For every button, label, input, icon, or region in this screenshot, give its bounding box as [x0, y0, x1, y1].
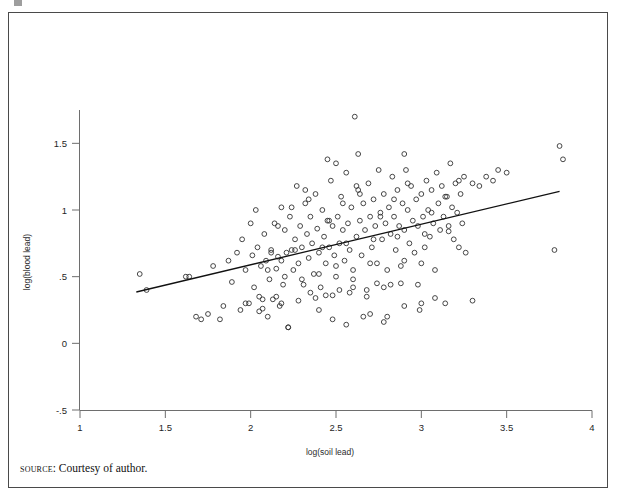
- data-point: [463, 250, 468, 255]
- data-point: [318, 285, 323, 290]
- data-point: [257, 309, 262, 314]
- data-point: [450, 205, 455, 210]
- data-point: [446, 229, 451, 234]
- data-point-group: [137, 114, 565, 329]
- data-point: [381, 320, 386, 325]
- data-point: [357, 192, 362, 197]
- data-point: [334, 274, 339, 279]
- data-point: [282, 274, 287, 279]
- data-point: [398, 281, 403, 286]
- source-note: source: Courtesy of author.: [20, 462, 147, 474]
- data-point: [206, 312, 211, 317]
- y-tick-label: .5: [59, 271, 67, 282]
- data-point: [259, 264, 264, 269]
- data-point: [380, 237, 385, 242]
- data-point: [412, 250, 417, 255]
- data-point: [291, 268, 296, 273]
- data-point: [410, 218, 415, 223]
- data-point: [388, 282, 393, 287]
- regression-line: [136, 191, 559, 292]
- data-point: [286, 325, 291, 330]
- data-point: [462, 174, 467, 179]
- data-point: [342, 258, 347, 263]
- y-tick-label: -.5: [56, 405, 67, 416]
- data-point: [281, 282, 286, 287]
- data-point: [328, 178, 333, 183]
- data-point: [289, 205, 294, 210]
- data-point: [448, 161, 453, 166]
- data-point: [456, 178, 461, 183]
- x-tick-label: 3.5: [500, 422, 513, 433]
- data-point: [305, 232, 310, 237]
- source-text: : Courtesy of author.: [53, 462, 148, 474]
- data-point: [361, 201, 366, 206]
- data-point: [371, 237, 376, 242]
- data-point: [260, 297, 265, 302]
- data-point: [470, 181, 475, 186]
- data-point: [405, 181, 410, 186]
- data-point: [433, 268, 438, 273]
- data-point: [351, 277, 356, 282]
- data-point: [265, 268, 270, 273]
- data-point: [346, 221, 351, 226]
- data-point: [250, 253, 255, 258]
- data-point: [402, 304, 407, 309]
- data-point: [416, 282, 421, 287]
- x-tick-label: 3: [419, 422, 424, 433]
- y-tick-label: 1: [62, 205, 67, 216]
- data-point: [375, 281, 380, 286]
- data-point: [552, 248, 557, 253]
- data-point: [393, 248, 398, 253]
- data-point: [293, 248, 298, 253]
- data-point: [392, 214, 397, 219]
- scatter-plot: -.50.511.5 11.522.533.54 log(soil lead) …: [0, 0, 618, 495]
- data-point: [460, 221, 465, 226]
- data-point: [279, 258, 284, 263]
- data-point: [351, 268, 356, 273]
- data-point: [366, 181, 371, 186]
- data-point: [298, 224, 303, 229]
- data-point: [262, 232, 267, 237]
- data-point: [419, 301, 424, 306]
- data-point: [306, 256, 311, 261]
- data-point: [455, 210, 460, 215]
- data-point: [299, 245, 304, 250]
- data-point: [211, 264, 216, 269]
- data-point: [381, 192, 386, 197]
- data-point: [253, 208, 258, 213]
- data-point: [218, 317, 223, 322]
- y-axis-label: log(blood lead): [22, 234, 32, 290]
- data-point: [337, 288, 342, 293]
- data-point: [301, 282, 306, 287]
- data-point: [330, 317, 335, 322]
- data-point: [395, 234, 400, 239]
- data-point: [436, 201, 441, 206]
- data-point: [339, 194, 344, 199]
- data-point: [322, 234, 327, 239]
- data-point: [229, 280, 234, 285]
- data-point: [334, 161, 339, 166]
- data-point: [330, 224, 335, 229]
- data-point: [243, 268, 248, 273]
- data-point: [557, 144, 562, 149]
- data-point: [323, 293, 328, 298]
- data-point: [303, 188, 308, 193]
- data-point: [363, 228, 368, 233]
- data-point: [317, 272, 322, 277]
- data-point: [334, 264, 339, 269]
- data-point: [422, 232, 427, 237]
- x-tick-label: 2: [248, 422, 253, 433]
- data-point: [477, 184, 482, 189]
- axes: [80, 110, 593, 411]
- data-point: [265, 314, 270, 319]
- data-point: [352, 114, 357, 119]
- data-point: [238, 308, 243, 313]
- data-point: [344, 170, 349, 175]
- source-label: source: [20, 462, 53, 474]
- data-point: [456, 245, 461, 250]
- data-point: [371, 197, 376, 202]
- data-point: [226, 258, 231, 263]
- data-point: [308, 290, 313, 295]
- data-point: [248, 221, 253, 226]
- data-point: [284, 250, 289, 255]
